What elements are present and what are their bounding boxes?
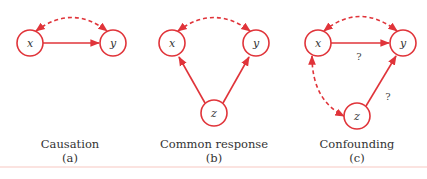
- node-label: x: [169, 37, 176, 50]
- caption: Causation: [41, 137, 100, 151]
- node-y: y: [243, 30, 269, 56]
- sublabel: (a): [62, 151, 78, 165]
- node-x: x: [159, 30, 185, 56]
- dashed-association-arrow-x-y: [324, 17, 397, 32]
- causal-arrow-z-to-y: [366, 56, 396, 106]
- causal-arrow-z-to-y: [223, 57, 249, 103]
- divider: [0, 166, 427, 168]
- question-mark-label: ?: [385, 91, 390, 102]
- dashed-association-arrow-x-z: [312, 56, 344, 116]
- node-label: x: [315, 37, 322, 50]
- dashed-association-arrow: [36, 18, 107, 32]
- causal-diagrams: x y Causation (a) x y z Common response …: [0, 0, 427, 179]
- caption: Confounding: [320, 137, 396, 151]
- node-y: y: [390, 30, 416, 56]
- node-label: z: [353, 110, 360, 123]
- dashed-association-arrow: [178, 18, 250, 32]
- causal-arrow-z-to-x: [179, 57, 205, 103]
- panel-causation: x y Causation (a): [17, 18, 126, 166]
- node-x: x: [17, 30, 43, 56]
- question-mark-label: ?: [356, 51, 361, 62]
- panel-confounding: ? ? x y z Confounding (c): [305, 17, 416, 166]
- node-z: z: [201, 100, 227, 126]
- sublabel: (c): [349, 151, 364, 165]
- node-y: y: [100, 30, 126, 56]
- node-x: x: [305, 30, 331, 56]
- node-label: z: [210, 107, 217, 120]
- node-label: x: [27, 37, 34, 50]
- node-z: z: [344, 103, 370, 129]
- node-label: y: [399, 37, 407, 50]
- sublabel: (b): [206, 151, 222, 165]
- caption: Common response: [160, 137, 268, 151]
- panel-common-response: x y z Common response (b): [159, 18, 269, 166]
- node-label: y: [252, 37, 260, 50]
- node-label: y: [109, 37, 117, 50]
